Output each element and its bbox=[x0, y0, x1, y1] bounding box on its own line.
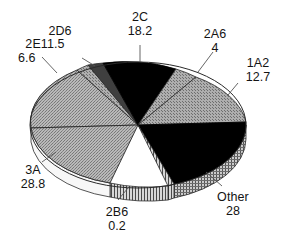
leader-1a2 bbox=[228, 83, 238, 95]
slice-label-2a6-name: 2A6 bbox=[204, 27, 227, 41]
slice-label-2b6-value: 0.2 bbox=[92, 219, 142, 233]
slice-label-2c: 2C 18.2 bbox=[110, 10, 170, 38]
slice-label-2d6: 2D6 bbox=[35, 24, 85, 38]
slice-label-3a: 3A 28.8 bbox=[8, 163, 58, 191]
slice-label-2e1: 2E11.5 6.6 bbox=[12, 38, 78, 65]
slice-label-1a2-name: 1A2 bbox=[247, 56, 270, 70]
pie-chart: 2C 18.2 2D6 2E11.5 6.6 2A6 4 1A2 12.7 Ot… bbox=[0, 0, 285, 242]
slice-label-2e1-name: 2E11.5 bbox=[25, 37, 64, 51]
slice-label-3a-value: 28.8 bbox=[8, 177, 58, 191]
slice-label-2a6-value: 4 bbox=[190, 41, 240, 55]
slice-label-other-name: Other bbox=[217, 190, 249, 204]
slice-label-2c-value: 18.2 bbox=[110, 24, 170, 38]
slice-label-2c-name: 2C bbox=[132, 10, 148, 24]
slice-label-2b6-name: 2B6 bbox=[106, 205, 129, 219]
slice-label-1a2-value: 12.7 bbox=[233, 70, 283, 84]
slice-label-other-value: 28 bbox=[203, 204, 263, 218]
side-wall-2b6 bbox=[168, 184, 174, 200]
slice-label-1a2: 1A2 12.7 bbox=[233, 56, 283, 84]
slice-label-2a6: 2A6 4 bbox=[190, 27, 240, 55]
slice-label-2b6: 2B6 0.2 bbox=[92, 205, 142, 233]
slice-label-other: Other 28 bbox=[203, 190, 263, 218]
slice-label-3a-name: 3A bbox=[25, 163, 41, 177]
slice-label-2d6-name: 2D6 bbox=[48, 24, 71, 38]
side-wall-2b6-band bbox=[110, 183, 168, 201]
leader-2a6 bbox=[198, 52, 213, 72]
slice-label-2e1-value: 6.6 bbox=[12, 52, 78, 66]
